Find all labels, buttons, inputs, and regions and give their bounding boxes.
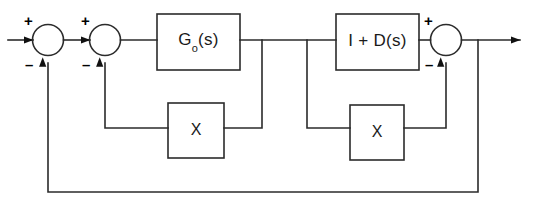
sum-2-plus-sign: +: [81, 13, 90, 28]
diagram-lines: [0, 0, 537, 205]
sum-1-minus-sign: –: [25, 57, 33, 72]
sum-3-plus-sign: +: [424, 13, 433, 28]
block-diagram: Go(s) I + D(s) X X + – + – + –: [0, 0, 537, 205]
forward-plant-label: Go(s): [157, 30, 240, 51]
inner-feedback-gain-right-label: X: [350, 123, 404, 141]
left-inner-feedback-return: [105, 63, 168, 128]
right-inner-feedback-tap: [307, 40, 350, 128]
outer-feedback-path: [48, 40, 478, 192]
inner-feedback-gain-left-label: X: [168, 121, 224, 139]
sum-1-plus-sign: +: [24, 13, 33, 28]
sum-3-minus-sign: –: [425, 57, 433, 72]
compensator-label: I + D(s): [336, 31, 419, 51]
sum-3-circle: [431, 25, 462, 56]
sum-2-minus-sign: –: [82, 57, 90, 72]
sum-2-circle: [90, 25, 121, 56]
left-inner-feedback-tap: [224, 40, 262, 128]
sum-1-circle: [33, 25, 64, 56]
